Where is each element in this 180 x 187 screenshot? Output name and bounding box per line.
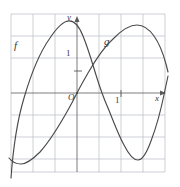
curve-label-f: f — [14, 40, 17, 51]
curve-label-g: g — [104, 36, 110, 47]
curve-f — [11, 21, 168, 178]
origin-label: O — [68, 93, 75, 102]
y-axis-arrow — [75, 16, 80, 22]
y-axis-tick-label-1: 1 — [66, 49, 71, 58]
y-axis-label: y — [67, 13, 71, 22]
function-graph-figure: f g y x O 1 1 — [0, 0, 180, 187]
origin-point — [76, 92, 78, 94]
x-axis-tick-label-1: 1 — [115, 96, 120, 105]
x-axis-label: x — [155, 94, 159, 103]
graph-canvas — [0, 0, 180, 187]
